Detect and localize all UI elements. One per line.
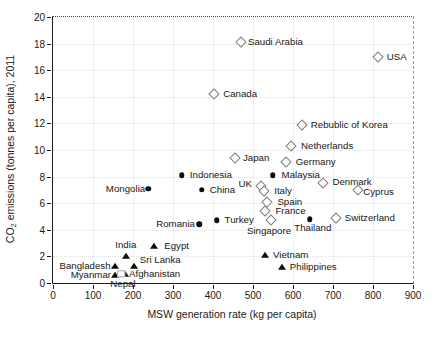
data-point-label: Indonesia bbox=[190, 170, 232, 180]
data-point-label: Philippines bbox=[290, 262, 337, 272]
data-point-label: Vietnam bbox=[273, 250, 308, 260]
data-point-label: India bbox=[115, 241, 136, 251]
x-tick-mark bbox=[93, 285, 94, 289]
y-tick-mark bbox=[47, 283, 51, 284]
diamond-marker bbox=[265, 215, 276, 226]
y-gridline bbox=[53, 150, 413, 152]
y-tick-label: 12 bbox=[34, 118, 45, 129]
y-tick-mark bbox=[47, 230, 51, 231]
y-axis-title-post: emissions (tonnes per capita), 2011 bbox=[4, 55, 16, 223]
y-tick-mark bbox=[47, 17, 51, 18]
data-point-label: Nepal bbox=[110, 279, 135, 289]
triangle-marker bbox=[261, 252, 269, 258]
data-point-label: Canada bbox=[223, 89, 257, 99]
data-point-label: China bbox=[210, 185, 235, 195]
circle-marker bbox=[199, 187, 205, 193]
circle-marker bbox=[270, 173, 276, 179]
x-tick-label: 600 bbox=[285, 290, 302, 301]
diamond-marker bbox=[296, 119, 307, 130]
y-tick-mark bbox=[47, 177, 51, 178]
data-point-label: Switzerland bbox=[345, 213, 395, 223]
circle-marker bbox=[196, 222, 202, 228]
data-point-label: Germany bbox=[296, 157, 336, 167]
x-tick-label: 200 bbox=[125, 290, 142, 301]
data-point-label: Afghanistan bbox=[129, 269, 180, 279]
data-point-label: Mongolia bbox=[106, 184, 145, 194]
y-axis-title-pre: CO bbox=[4, 227, 16, 243]
x-tick-label: 400 bbox=[205, 290, 222, 301]
data-point-label: Italy bbox=[274, 186, 292, 196]
data-point-label: USA bbox=[387, 52, 407, 62]
y-tick-mark bbox=[47, 203, 51, 204]
x-tick-label: 700 bbox=[325, 290, 342, 301]
y-tick-label: 2 bbox=[39, 251, 45, 262]
y-tick-mark bbox=[47, 150, 51, 151]
y-tick-mark bbox=[47, 44, 51, 45]
x-tick-mark bbox=[173, 285, 174, 289]
diamond-marker bbox=[235, 37, 246, 48]
data-point-label: Singapore bbox=[247, 226, 291, 236]
data-point-label: Rebublic of Korea bbox=[311, 120, 388, 130]
plot-area: 0100200300400500600700800900024681012141… bbox=[52, 16, 414, 284]
data-point-label: Malaysia bbox=[282, 170, 320, 180]
y-tick-label: 0 bbox=[39, 278, 45, 289]
square-marker bbox=[117, 270, 125, 278]
y-gridline bbox=[53, 44, 413, 46]
y-tick-label: 10 bbox=[34, 145, 45, 156]
x-tick-label: 300 bbox=[165, 290, 182, 301]
circle-marker bbox=[214, 218, 220, 224]
diamond-marker bbox=[330, 212, 341, 223]
data-point-label: UK bbox=[239, 179, 252, 189]
triangle-marker bbox=[150, 242, 158, 248]
scatter-figure: CO2 emissions (tonnes per capita), 2011 … bbox=[0, 0, 436, 337]
data-point-label: Egypt bbox=[164, 241, 189, 251]
x-tick-label: 100 bbox=[85, 290, 102, 301]
circle-marker bbox=[145, 186, 151, 192]
y-gridline bbox=[53, 203, 413, 205]
data-point-label: France bbox=[275, 206, 305, 216]
y-tick-label: 6 bbox=[39, 198, 45, 209]
triangle-marker bbox=[278, 264, 286, 270]
circle-marker bbox=[179, 173, 185, 179]
y-tick-label: 8 bbox=[39, 171, 45, 182]
data-point-label: Japan bbox=[243, 153, 269, 163]
x-tick-mark bbox=[253, 285, 254, 289]
x-tick-mark bbox=[293, 285, 294, 289]
data-point-label: Turkey bbox=[225, 216, 254, 226]
triangle-marker bbox=[111, 262, 119, 268]
y-tick-mark bbox=[47, 123, 51, 124]
data-point-label: Cyprus bbox=[363, 187, 394, 197]
y-axis-title: CO2 emissions (tonnes per capita), 2011 bbox=[4, 55, 18, 243]
x-tick-mark bbox=[333, 285, 334, 289]
y-tick-mark bbox=[47, 97, 51, 98]
data-point-label: Myanmar bbox=[71, 270, 111, 280]
data-point-label: Thailand bbox=[294, 223, 331, 233]
triangle-marker bbox=[122, 253, 130, 259]
y-tick-label: 18 bbox=[34, 38, 45, 49]
x-tick-mark bbox=[53, 285, 54, 289]
x-tick-label: 800 bbox=[365, 290, 382, 301]
data-point-label: Sri Lanka bbox=[140, 256, 181, 266]
y-gridline bbox=[53, 70, 413, 72]
diamond-marker bbox=[229, 152, 240, 163]
y-tick-label: 16 bbox=[34, 65, 45, 76]
circle-marker bbox=[307, 216, 313, 222]
y-tick-mark bbox=[47, 256, 51, 257]
x-tick-label: 0 bbox=[50, 290, 56, 301]
data-point-label: Romania bbox=[156, 220, 195, 230]
x-tick-label: 500 bbox=[245, 290, 262, 301]
y-gridline bbox=[53, 256, 413, 258]
y-tick-mark bbox=[47, 70, 51, 71]
x-axis-title: MSW generation rate (kg per capita) bbox=[147, 308, 316, 320]
data-point-label: Netherlands bbox=[301, 141, 353, 151]
data-point-label: Saudi Arabia bbox=[248, 37, 303, 47]
y-gridline bbox=[53, 230, 413, 232]
y-tick-label: 20 bbox=[34, 12, 45, 23]
y-tick-label: 4 bbox=[39, 224, 45, 235]
diamond-marker bbox=[280, 156, 291, 167]
x-tick-mark bbox=[413, 285, 414, 289]
x-tick-mark bbox=[213, 285, 214, 289]
x-tick-mark bbox=[373, 285, 374, 289]
x-tick-label: 900 bbox=[405, 290, 422, 301]
y-axis-title-subscript: 2 bbox=[9, 223, 18, 227]
